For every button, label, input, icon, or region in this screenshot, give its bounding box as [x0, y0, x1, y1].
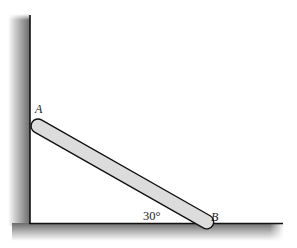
floor: [12, 223, 284, 241]
label-point-a: A: [34, 102, 43, 116]
wall: [8, 14, 30, 226]
label-angle: 30°: [143, 209, 161, 223]
rod: [28, 116, 216, 231]
ladder-diagram: A B 30°: [0, 0, 297, 248]
label-point-b: B: [211, 210, 219, 224]
